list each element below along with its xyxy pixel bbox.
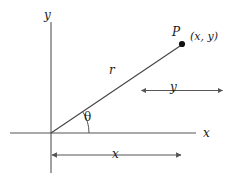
point-p-label: P: [172, 26, 180, 38]
radius-label: r: [109, 64, 115, 76]
y-axis-label: y: [44, 9, 51, 21]
point-p-marker: [179, 41, 185, 47]
y-dimension-label: y: [170, 81, 177, 93]
x-dimension-label: x: [112, 148, 119, 160]
angle-theta-label: θ: [84, 111, 91, 123]
polar-coordinate-diagram: y x r θ P (x, y) y x: [0, 0, 225, 180]
x-axis-label: x: [203, 127, 210, 139]
radius-line: [51, 46, 180, 133]
point-coordinates-label: (x, y): [190, 31, 218, 42]
